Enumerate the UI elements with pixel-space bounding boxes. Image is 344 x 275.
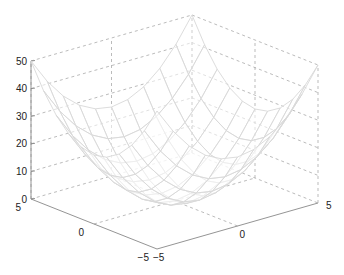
z-tick-label: 30	[16, 111, 28, 122]
y-tick-label: 0	[78, 227, 84, 238]
z-tick-label: 50	[16, 56, 28, 67]
z-tick-label: 40	[16, 83, 28, 94]
y-tick-label: −5	[138, 252, 150, 263]
z-tick-label: 20	[16, 138, 28, 149]
surface-plot: 0102030405050−5−505	[0, 0, 344, 275]
y-tick-label: 5	[15, 202, 21, 213]
z-tick-label: 10	[16, 166, 28, 177]
x-tick-label: 0	[240, 229, 246, 240]
x-tick-label: 5	[326, 200, 332, 211]
x-tick-label: −5	[153, 252, 165, 263]
z-tick-label: 0	[21, 194, 27, 205]
surface-mesh	[31, 15, 318, 205]
